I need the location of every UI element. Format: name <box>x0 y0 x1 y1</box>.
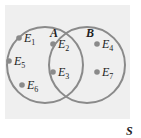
element-label: E7 <box>101 65 113 81</box>
element-dot <box>94 69 100 75</box>
element-dot <box>19 82 25 88</box>
element-label: E4 <box>101 37 113 53</box>
set-a-label: A <box>49 26 58 40</box>
element-dot <box>50 69 56 75</box>
element-dot <box>16 35 22 41</box>
universe-label: S <box>126 124 133 138</box>
element-label: E1 <box>23 31 35 47</box>
element-label: E5 <box>13 54 25 70</box>
element-dot <box>94 41 100 47</box>
element-label: E3 <box>57 65 69 81</box>
element-dot <box>6 58 12 64</box>
element-dot <box>50 41 56 47</box>
venn-diagram: A B S E1E5E6E2E3E4E7 <box>0 0 141 138</box>
element-label: E6 <box>26 78 38 94</box>
element-label: E2 <box>57 37 69 53</box>
set-b-label: B <box>85 26 94 40</box>
